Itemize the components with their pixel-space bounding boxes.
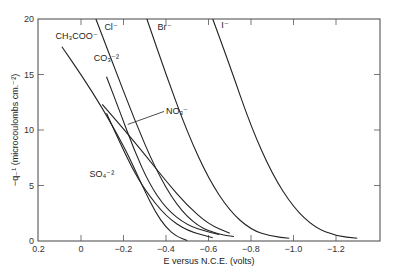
x-axis-title: E versus N.C.E. (volts) (163, 256, 254, 266)
y-tick-label: 10 (24, 125, 34, 135)
curve-label: I⁻ (221, 20, 229, 30)
curve (96, 19, 234, 237)
x-tick-label: −0.2 (115, 244, 133, 254)
y-tick-label: 0 (29, 236, 34, 246)
y-tick-label: 15 (24, 70, 34, 80)
curve (147, 19, 289, 238)
curve (213, 19, 358, 238)
y-axis-title: −q₋¹ (microcoulombs cm.⁻²) (10, 74, 20, 186)
curve-label: CH₃COO⁻ (56, 31, 98, 41)
curve-label: CO₃⁻² (94, 53, 119, 63)
plot-frame (38, 19, 380, 241)
y-tick-label: 20 (24, 14, 34, 24)
x-tick-label: −1.2 (327, 244, 345, 254)
curve-label: Br⁻ (158, 22, 172, 32)
x-tick-label: −1.0 (285, 244, 303, 254)
curve-labels: CH₃COO⁻Cl⁻Br⁻I⁻CO₃⁻²NO₃⁻SO₄⁻² (56, 20, 229, 179)
y-tick-label: 5 (29, 181, 34, 191)
x-tick-label: −0.6 (200, 244, 218, 254)
curve (107, 77, 220, 235)
curve (62, 47, 187, 241)
arrow-icon (128, 111, 164, 124)
x-tick-label: 0 (78, 244, 83, 254)
chart-svg: 0.20−0.2−0.4−0.6−0.8−1.0−1.205101520 CH₃… (0, 0, 393, 279)
curve-label: NO₃⁻ (166, 106, 188, 116)
curve-label: Cl⁻ (104, 22, 118, 32)
curve (102, 104, 230, 233)
x-tick-label: 0.2 (32, 244, 45, 254)
curve-label: SO₄⁻² (90, 169, 115, 179)
x-tick-label: −0.4 (157, 244, 175, 254)
x-tick-label: −0.8 (242, 244, 260, 254)
